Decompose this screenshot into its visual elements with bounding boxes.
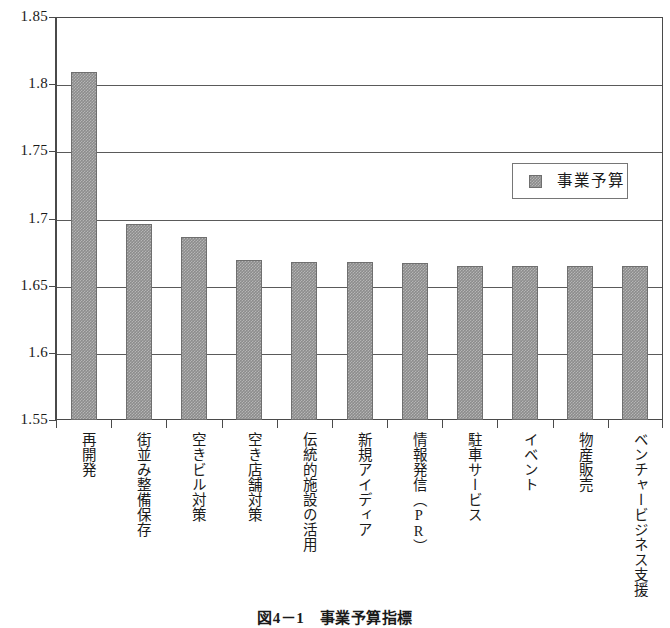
x-axis-category-label: 駐車サービス xyxy=(459,432,481,522)
bars-layer xyxy=(56,17,663,420)
bar xyxy=(181,237,207,420)
x-axis-category-label: ベンチャービジネス支援 xyxy=(624,432,646,597)
y-axis-tick-mark xyxy=(49,286,56,287)
bar xyxy=(347,262,373,421)
x-axis-category-label: 物産販売 xyxy=(569,432,591,492)
bar xyxy=(457,266,483,420)
y-axis-tick-label: 1.6 xyxy=(2,345,48,360)
y-axis-tick-label: 1.65 xyxy=(2,278,48,293)
y-axis-tick-mark xyxy=(49,219,56,220)
y-axis-tick-mark xyxy=(49,420,56,421)
legend-label: 事業予算 xyxy=(557,173,625,189)
y-axis-tick-label: 1.75 xyxy=(2,143,48,158)
y-axis-tick-label: 1.85 xyxy=(2,9,48,24)
x-axis-category-label: 新規アイディア xyxy=(349,432,371,537)
bar xyxy=(236,260,262,420)
x-axis-tick-mark xyxy=(662,420,663,428)
x-axis-tick-mark xyxy=(56,420,57,428)
x-axis-tick-mark xyxy=(387,420,388,428)
y-axis-tick-mark xyxy=(49,353,56,354)
y-axis-tick-label: 1.7 xyxy=(2,211,48,226)
x-axis-category-label: 伝統的施設の活用 xyxy=(293,432,315,552)
y-axis-tick-mark xyxy=(49,151,56,152)
legend-swatch-icon xyxy=(529,175,542,188)
bar xyxy=(291,262,317,421)
x-axis-category-label: イベント xyxy=(514,432,536,492)
bar xyxy=(71,72,97,420)
x-axis-ticks xyxy=(56,420,663,429)
x-axis-labels: 再開発街並み整備保存空きビル対策空き店舗対策伝統的施設の活用新規アイディア情報発… xyxy=(56,432,663,604)
x-axis-tick-mark xyxy=(166,420,167,428)
x-axis-tick-mark xyxy=(553,420,554,428)
bar xyxy=(402,263,428,420)
x-axis-category-label: 情報発信（PR） xyxy=(404,432,426,554)
x-axis-tick-mark xyxy=(277,420,278,428)
bar xyxy=(622,266,648,420)
x-axis-tick-mark xyxy=(111,420,112,428)
bar xyxy=(567,266,593,420)
y-axis-tick-mark xyxy=(49,17,56,18)
x-axis-category-label: 空きビル対策 xyxy=(183,432,205,522)
bar xyxy=(126,224,152,420)
x-axis-tick-mark xyxy=(332,420,333,428)
x-axis-category-label: 街並み整備保存 xyxy=(128,432,150,537)
legend: 事業予算 xyxy=(512,163,628,199)
bar xyxy=(512,266,538,420)
y-axis-tick-mark xyxy=(49,84,56,85)
figure-container: 1.851.81.751.71.651.61.55 再開発街並み整備保存空きビル… xyxy=(0,0,670,628)
x-axis-tick-mark xyxy=(608,420,609,428)
x-axis-tick-mark xyxy=(222,420,223,428)
y-axis-tick-label: 1.8 xyxy=(2,76,48,91)
y-axis-tick-label: 1.55 xyxy=(2,412,48,427)
figure-caption: 図4－1 事業予算指標 xyxy=(0,608,670,628)
x-axis-tick-mark xyxy=(442,420,443,428)
x-axis-tick-mark xyxy=(497,420,498,428)
x-axis-category-label: 空き店舗対策 xyxy=(238,432,260,522)
x-axis-category-label: 再開発 xyxy=(73,432,95,477)
